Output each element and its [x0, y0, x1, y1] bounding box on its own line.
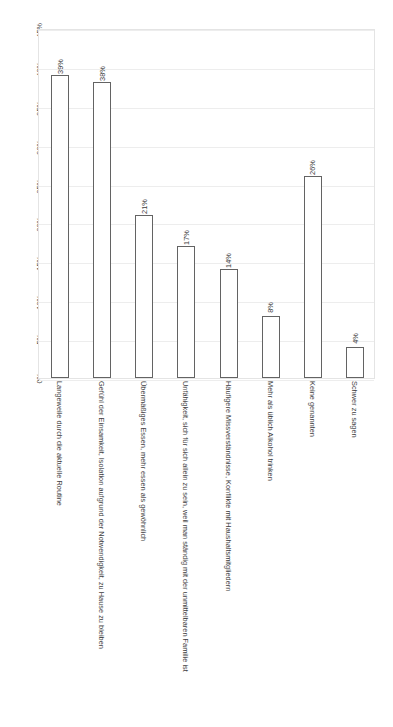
bar-slot: 8%	[250, 30, 292, 378]
x-axis-label-slot: Unfähigkeit, sich für sich allein zu sei…	[164, 381, 206, 721]
bar-slot: 17%	[165, 30, 207, 378]
bar-slot: 26%	[292, 30, 334, 378]
x-axis-category-label: Schwer zu sagen	[350, 381, 357, 438]
bar-slot: 14%	[208, 30, 250, 378]
bar[interactable]	[346, 347, 364, 378]
bar[interactable]	[304, 176, 322, 378]
bar-slot: 4%	[334, 30, 376, 378]
bar-value-label: 21%	[132, 202, 156, 211]
y-axis: 0%5%10%15%20%25%30%35%40%45%	[0, 0, 40, 400]
x-axis-category-label: Langeweile durch die aktuelle Routine	[55, 381, 62, 506]
bar-value-label: 17%	[174, 233, 198, 242]
x-axis-category-label: Mehr als üblich Alkohol trinken	[266, 381, 273, 481]
bar[interactable]	[262, 316, 280, 378]
x-axis-label-slot: Übermäßiges Essen, mehr essen als gewöhn…	[122, 381, 164, 721]
bar[interactable]	[51, 75, 69, 378]
bar-series: 39%38%21%17%14%8%26%4%	[39, 30, 374, 378]
x-axis-category-label: Häufigere Missverständnisse, Konflikte m…	[224, 381, 231, 591]
bar-slot: 38%	[81, 30, 123, 378]
x-axis-category-label: Keine genannten	[308, 381, 315, 437]
bar-value-label: 38%	[90, 69, 114, 78]
bar[interactable]	[93, 82, 111, 378]
x-axis-label-slot: Langeweile durch die aktuelle Routine	[38, 381, 80, 721]
bar-value-label: 14%	[217, 256, 241, 265]
bar-slot: 39%	[39, 30, 81, 378]
x-axis-label-slot: Keine genannten	[291, 381, 333, 721]
bar-chart: 0%5%10%15%20%25%30%35%40%45% 39%38%21%17…	[0, 0, 393, 727]
bar-value-label: 39%	[48, 62, 72, 71]
x-axis-category-labels: Langeweile durch die aktuelle RoutineGef…	[38, 381, 375, 721]
x-axis-label-slot: Häufigere Missverständnisse, Konflikte m…	[207, 381, 249, 721]
bar-value-label: 26%	[301, 163, 325, 172]
bar-slot: 21%	[123, 30, 165, 378]
bar-value-label: 4%	[343, 334, 367, 343]
bar[interactable]	[220, 269, 238, 378]
x-axis-label-slot: Mehr als üblich Alkohol trinken	[249, 381, 291, 721]
x-axis-category-label: Gefühl der Einsamkeit, Isolation aufgrun…	[97, 381, 104, 649]
plot-area: 39%38%21%17%14%8%26%4%	[38, 29, 375, 379]
x-axis-category-label: Unfähigkeit, sich für sich allein zu sei…	[182, 381, 189, 672]
bar[interactable]	[177, 246, 195, 378]
bar[interactable]	[135, 215, 153, 378]
x-axis-label-slot: Schwer zu sagen	[333, 381, 375, 721]
bar-value-label: 8%	[259, 303, 283, 312]
x-axis-label-slot: Gefühl der Einsamkeit, Isolation aufgrun…	[80, 381, 122, 721]
x-axis-category-label: Übermäßiges Essen, mehr essen als gewöhn…	[140, 381, 147, 541]
